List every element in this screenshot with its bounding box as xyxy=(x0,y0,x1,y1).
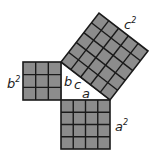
side-b-label: b xyxy=(64,74,72,89)
b-squared-square xyxy=(23,62,61,100)
a-squared-square xyxy=(61,100,110,149)
b-squared-label: b2 xyxy=(7,75,20,91)
c-squared-label: c2 xyxy=(124,16,136,32)
a-squared-label: a2 xyxy=(115,118,128,134)
pythagorean-diagram: c2 b2 a2 b c a xyxy=(0,0,156,158)
side-a-label: a xyxy=(82,86,90,101)
side-c-label: c xyxy=(74,77,81,92)
